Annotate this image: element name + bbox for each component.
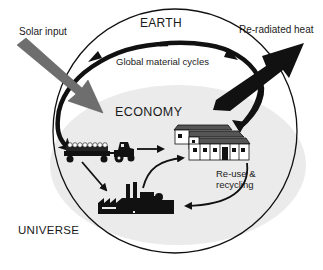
reuse-line-1: Re-use &: [216, 168, 256, 179]
earth-label: EARTH: [140, 17, 182, 29]
global-material-cycles-label: Global material cycles: [116, 57, 209, 67]
solar-input-label: Solar input: [19, 27, 67, 37]
reuse-recycling-label: Re-use & recycling: [216, 168, 256, 190]
universe-label: UNIVERSE: [18, 225, 79, 237]
reradiated-heat-label: Re-radiated heat: [239, 25, 314, 35]
reuse-line-2: recycling: [216, 179, 256, 190]
economy-label: ECONOMY: [115, 106, 182, 119]
